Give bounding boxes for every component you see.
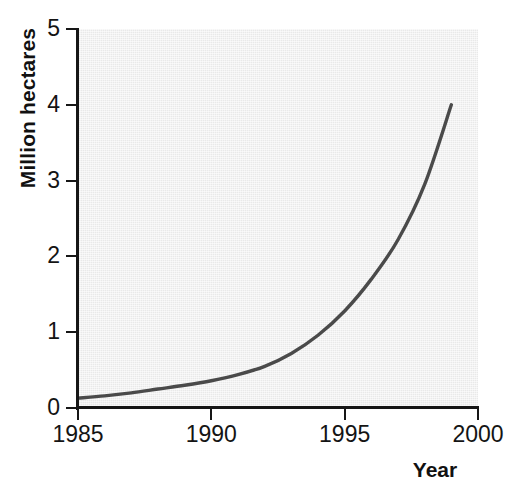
plot-area [78, 29, 478, 408]
x-tick-mark [210, 408, 212, 420]
x-tick-mark [477, 408, 479, 420]
data-curve-svg [78, 29, 478, 408]
y-tick-label: 1 [32, 320, 60, 343]
y-tick-mark [66, 407, 77, 409]
y-tick-mark [66, 331, 77, 333]
y-tick-mark [66, 28, 77, 30]
y-axis-line [76, 28, 79, 410]
x-tick-mark [344, 408, 346, 420]
x-tick-label: 1990 [166, 423, 256, 446]
x-axis-line [76, 406, 479, 409]
y-tick-mark [66, 180, 77, 182]
y-tick-mark [66, 104, 77, 106]
y-tick-label: 0 [32, 396, 60, 419]
x-axis-title: Year [380, 458, 490, 482]
y-tick-label: 2 [32, 244, 60, 267]
chart-figure: 012345 1985199019952000 Million hectares… [0, 0, 524, 494]
y-tick-mark [66, 255, 77, 257]
x-tick-label: 1985 [33, 423, 123, 446]
x-tick-label: 2000 [433, 423, 523, 446]
x-tick-mark [77, 408, 79, 420]
series-line-area [78, 105, 451, 398]
y-axis-title: Million hectares [16, 18, 40, 198]
x-tick-label: 1995 [300, 423, 390, 446]
